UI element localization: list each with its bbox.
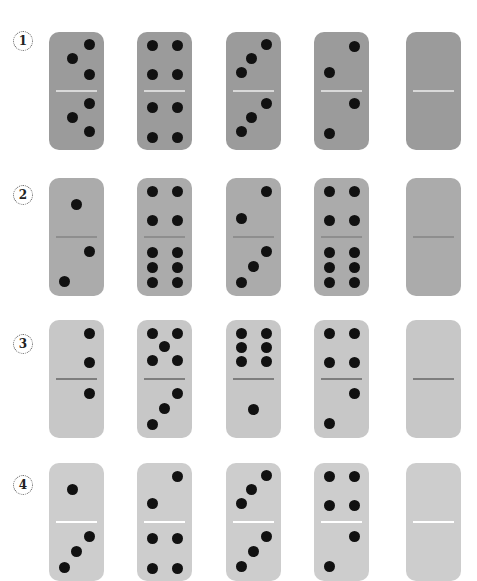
pip-dot-icon <box>236 126 247 137</box>
pip-dot-icon <box>261 531 272 542</box>
domino-tile <box>49 320 104 438</box>
domino-half-bottom <box>137 379 192 438</box>
pip-dot-icon <box>84 388 95 399</box>
pip-dot-icon <box>236 342 247 353</box>
domino-half-top <box>49 320 104 379</box>
pip-dot-icon <box>147 40 158 51</box>
pip-dot-icon <box>324 128 335 139</box>
pip-dot-icon <box>71 546 82 557</box>
domino-half-top <box>137 320 192 379</box>
domino-half-top <box>406 320 461 379</box>
pip-dot-icon <box>147 277 158 288</box>
domino-half-top <box>226 178 281 237</box>
pip-dot-icon <box>71 199 82 210</box>
domino-half-bottom <box>314 91 369 150</box>
blank-domino[interactable] <box>406 463 461 581</box>
domino-tile <box>226 32 281 150</box>
domino-half-top <box>226 320 281 379</box>
pip-dot-icon <box>349 328 360 339</box>
pip-dot-icon <box>261 328 272 339</box>
pip-dot-icon <box>67 484 78 495</box>
pip-dot-icon <box>84 531 95 542</box>
domino-half-top <box>137 32 192 91</box>
domino-half-bottom <box>49 522 104 581</box>
pip-dot-icon <box>172 262 183 273</box>
domino-half-top <box>49 178 104 237</box>
pip-dot-icon <box>147 247 158 258</box>
pip-dot-icon <box>147 262 158 273</box>
pip-dot-icon <box>84 126 95 137</box>
pip-dot-icon <box>324 215 335 226</box>
pip-dot-icon <box>172 69 183 80</box>
pip-dot-icon <box>84 98 95 109</box>
pip-dot-icon <box>147 419 158 430</box>
pip-dot-icon <box>246 53 257 64</box>
domino-half-bottom <box>406 522 461 581</box>
pip-dot-icon <box>236 356 247 367</box>
domino-tile <box>226 463 281 581</box>
pip-dot-icon <box>248 404 259 415</box>
domino-half-top <box>226 32 281 91</box>
domino-tile <box>137 32 192 150</box>
row-number-label: 1 <box>13 31 33 51</box>
domino-half-top <box>406 32 461 91</box>
pip-dot-icon <box>147 102 158 113</box>
pip-dot-icon <box>261 39 272 50</box>
domino-half-top <box>137 463 192 522</box>
domino-half-top <box>314 463 369 522</box>
domino-half-bottom <box>49 379 104 438</box>
pip-dot-icon <box>324 67 335 78</box>
row-number-label: 2 <box>13 185 33 205</box>
pip-dot-icon <box>349 186 360 197</box>
domino-half-top <box>49 32 104 91</box>
domino-half-bottom <box>314 379 369 438</box>
pip-dot-icon <box>248 261 259 272</box>
domino-tile <box>49 463 104 581</box>
domino-half-top <box>137 178 192 237</box>
pip-dot-icon <box>172 355 183 366</box>
pip-dot-icon <box>261 470 272 481</box>
pip-dot-icon <box>84 69 95 80</box>
domino-tile <box>314 32 369 150</box>
row-number-label: 4 <box>13 475 33 495</box>
blank-domino[interactable] <box>406 178 461 296</box>
domino-half-bottom <box>406 91 461 150</box>
pip-dot-icon <box>324 471 335 482</box>
pip-dot-icon <box>172 102 183 113</box>
pip-dot-icon <box>349 41 360 52</box>
pip-dot-icon <box>67 53 78 64</box>
domino-tile <box>314 463 369 581</box>
pip-dot-icon <box>349 98 360 109</box>
pip-dot-icon <box>147 132 158 143</box>
pip-dot-icon <box>261 356 272 367</box>
domino-tile <box>314 178 369 296</box>
domino-half-top <box>314 320 369 379</box>
pip-dot-icon <box>324 418 335 429</box>
domino-tile <box>137 178 192 296</box>
pip-dot-icon <box>261 342 272 353</box>
domino-tile <box>226 178 281 296</box>
pip-dot-icon <box>349 247 360 258</box>
pip-dot-icon <box>324 247 335 258</box>
pip-dot-icon <box>324 186 335 197</box>
pip-dot-icon <box>236 277 247 288</box>
pip-dot-icon <box>84 246 95 257</box>
pip-dot-icon <box>147 186 158 197</box>
domino-half-top <box>49 463 104 522</box>
domino-tile <box>137 320 192 438</box>
pip-dot-icon <box>172 328 183 339</box>
domino-half-bottom <box>226 91 281 150</box>
pip-dot-icon <box>147 533 158 544</box>
pip-dot-icon <box>248 546 259 557</box>
blank-domino[interactable] <box>406 320 461 438</box>
domino-tile <box>226 320 281 438</box>
pip-dot-icon <box>172 533 183 544</box>
domino-half-bottom <box>226 237 281 296</box>
pip-dot-icon <box>147 355 158 366</box>
blank-domino[interactable] <box>406 32 461 150</box>
pip-dot-icon <box>324 561 335 572</box>
pip-dot-icon <box>172 132 183 143</box>
pip-dot-icon <box>261 98 272 109</box>
pip-dot-icon <box>349 388 360 399</box>
pip-dot-icon <box>172 277 183 288</box>
